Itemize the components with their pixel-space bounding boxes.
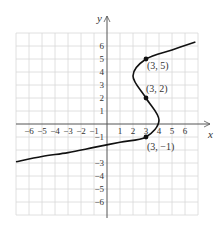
svg-text:−3: −3 (94, 158, 104, 168)
svg-text:−6: −6 (94, 197, 104, 207)
svg-text:3: 3 (100, 80, 105, 90)
y-axis-label: y (96, 12, 102, 24)
x-tick-labels: −6 −5 −4 −3 −2 −1 1 2 3 4 5 6 (24, 126, 188, 136)
svg-text:−2: −2 (76, 126, 86, 136)
svg-text:5: 5 (170, 126, 175, 136)
svg-text:3: 3 (144, 126, 149, 136)
svg-text:2: 2 (100, 93, 105, 103)
point-label-3-neg1: (3, −1) (147, 141, 174, 153)
svg-text:4: 4 (100, 67, 105, 77)
point-label-3-2: (3, 2) (146, 83, 168, 95)
point-3-2 (144, 96, 149, 101)
svg-text:−6: −6 (24, 126, 34, 136)
svg-text:−5: −5 (94, 184, 104, 194)
svg-text:2: 2 (131, 126, 136, 136)
svg-text:5: 5 (100, 54, 105, 64)
svg-text:4: 4 (157, 126, 162, 136)
point-3-neg1 (144, 135, 149, 140)
x-axis-label: x (207, 128, 213, 140)
svg-text:1: 1 (100, 106, 105, 116)
point-label-3-5: (3, 5) (147, 60, 169, 72)
svg-text:−4: −4 (50, 126, 60, 136)
svg-text:−5: −5 (37, 126, 47, 136)
svg-text:6: 6 (183, 126, 188, 136)
svg-text:−1: −1 (94, 132, 104, 142)
svg-text:6: 6 (100, 41, 105, 51)
svg-text:−4: −4 (94, 171, 104, 181)
svg-text:−3: −3 (63, 126, 73, 136)
graph: x y −6 −5 −4 −3 −2 −1 1 2 3 4 5 6 6 5 4 … (0, 0, 220, 225)
svg-text:1: 1 (118, 126, 123, 136)
